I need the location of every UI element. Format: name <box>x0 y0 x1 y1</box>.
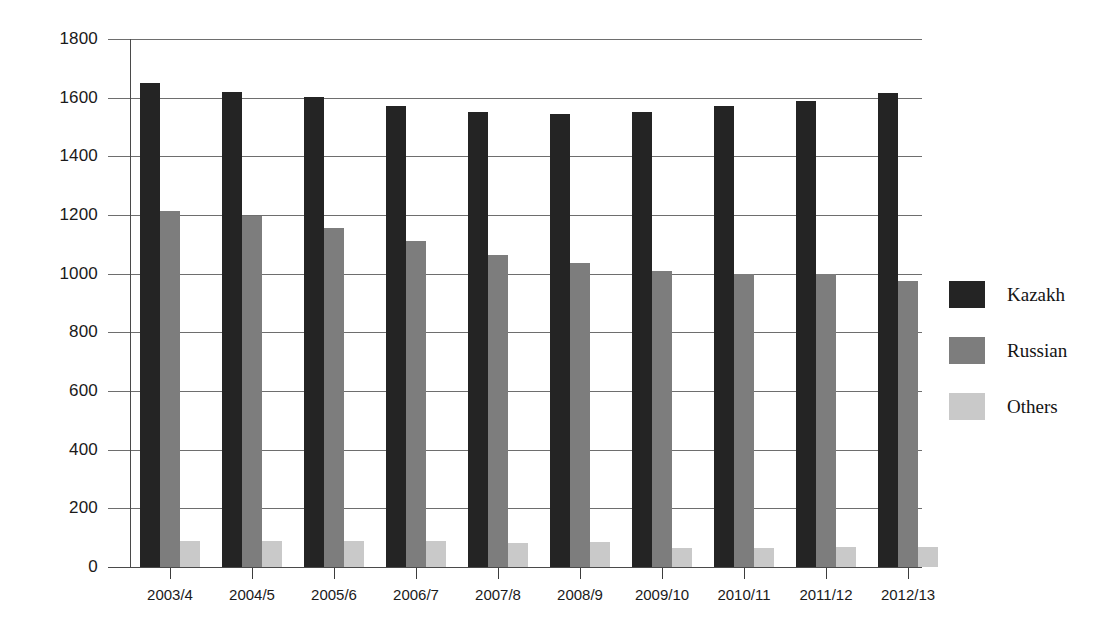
legend-item-others: Others <box>949 378 1067 434</box>
legend-swatch-icon <box>949 281 985 308</box>
y-axis-tick-value: 200 <box>26 499 98 516</box>
y-axis-tick-label: 1400 <box>26 147 98 164</box>
legend-label: Kazakh <box>1007 285 1065 304</box>
chart-legend: KazakhRussianOthers <box>949 266 1067 434</box>
legend-label: Others <box>1007 397 1058 416</box>
legend-item-kazakh: Kazakh <box>949 266 1067 322</box>
y-axis-tick-value: 1200 <box>26 206 98 223</box>
y-axis-tick-label: 1200 <box>26 206 98 223</box>
y-axis-tick-value: 1600 <box>26 89 98 106</box>
y-axis-tick-value: 1400 <box>26 147 98 164</box>
x-axis-tick <box>662 568 663 579</box>
x-axis-tick <box>416 568 417 579</box>
legend-swatch-icon <box>949 393 985 420</box>
y-axis-tick-value: 0 <box>26 558 98 575</box>
y-axis-tick-value: 600 <box>26 382 98 399</box>
y-axis-tick-label: 0 <box>26 558 98 575</box>
legend-label: Russian <box>1007 341 1067 360</box>
y-axis-tick-label: 600 <box>26 382 98 399</box>
y-axis-tick-label: 800 <box>26 323 98 340</box>
legend-swatch-icon <box>949 337 985 364</box>
x-axis-tick <box>744 568 745 579</box>
legend-item-russian: Russian <box>949 322 1067 378</box>
x-axis-tick <box>170 568 171 579</box>
x-axis-tick <box>498 568 499 579</box>
chart-axes-labels: 0200400600800100012001400160018002003/42… <box>0 0 1107 642</box>
y-axis-tick-label: 1000 <box>26 265 98 282</box>
y-axis-tick-label: 1800 <box>26 30 98 47</box>
y-axis-tick-value: 1000 <box>26 265 98 282</box>
bar-chart: 0200400600800100012001400160018002003/42… <box>0 0 1107 642</box>
y-axis-tick-label: 200 <box>26 499 98 516</box>
y-axis-tick-value: 400 <box>26 441 98 458</box>
x-axis-tick <box>826 568 827 579</box>
y-axis-tick-value: 1800 <box>26 30 98 47</box>
x-axis-tick <box>334 568 335 579</box>
x-axis-tick <box>252 568 253 579</box>
x-axis-tick-label: 2012/13 <box>853 586 963 604</box>
x-axis-tick <box>908 568 909 579</box>
y-axis-tick-label: 400 <box>26 441 98 458</box>
y-axis-tick-label: 1600 <box>26 89 98 106</box>
x-axis-tick <box>580 568 581 579</box>
y-axis-tick-value: 800 <box>26 323 98 340</box>
